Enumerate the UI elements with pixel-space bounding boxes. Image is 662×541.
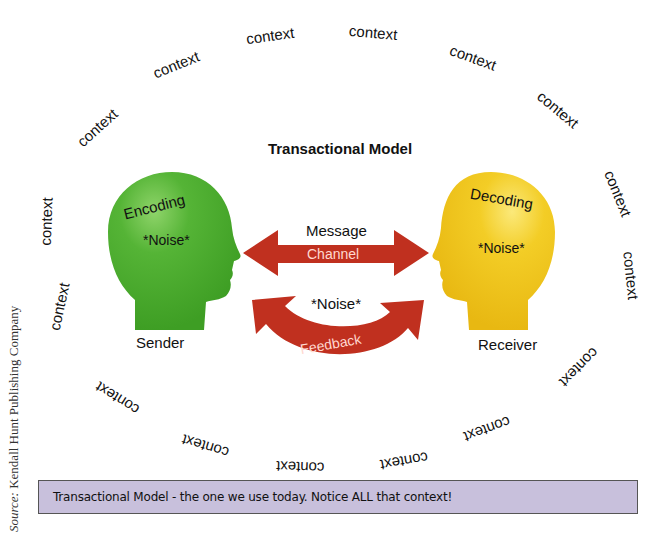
source-prefix: Source: — [6, 492, 21, 532]
receiver-noise-label: *Noise* — [478, 240, 525, 256]
diagram-graphics — [0, 0, 662, 541]
sender-label: Sender — [136, 334, 184, 351]
message-label: Message — [306, 222, 367, 239]
diagram-title: Transactional Model — [0, 140, 662, 157]
source-text: Kendall Hunt Publishing Company — [6, 306, 21, 489]
receiver-label: Receiver — [478, 336, 537, 353]
context-label: context — [276, 459, 325, 476]
context-label: context — [38, 197, 55, 246]
source-credit: Source: Kendall Hunt Publishing Company — [6, 292, 24, 532]
context-label: context — [348, 23, 397, 42]
caption-box: Transactional Model - the one we use tod… — [38, 480, 638, 514]
sender-noise-label: *Noise* — [143, 232, 190, 248]
noise-between-label: *Noise* — [311, 295, 361, 312]
caption-text: Transactional Model - the one we use tod… — [53, 490, 452, 504]
channel-label: Channel — [307, 246, 359, 262]
